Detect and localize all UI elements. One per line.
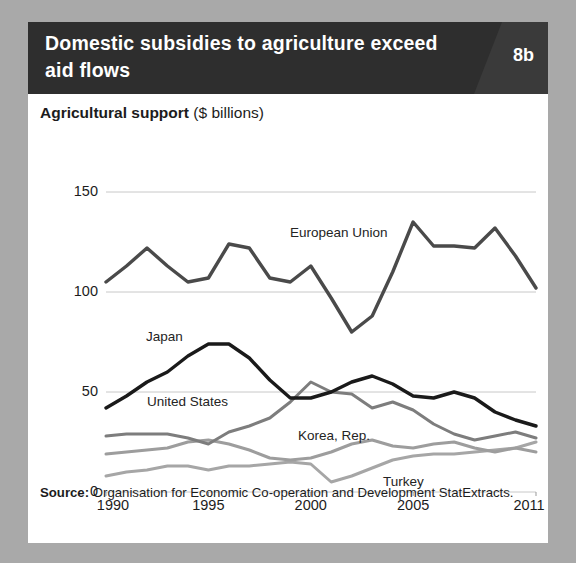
series-label-japan: Japan [146, 329, 183, 344]
figure-panel: Domestic subsidies to agriculture exceed… [28, 22, 548, 543]
series-line [106, 344, 536, 426]
line-chart-svg [28, 130, 548, 510]
series-label-korea-rep: Korea, Rep. [298, 428, 370, 443]
source-note: Source: Organisation for Economic Co-ope… [40, 484, 532, 501]
y-axis-tick-label: 150 [58, 183, 98, 199]
chart-subtitle-units: ($ billions) [193, 104, 264, 121]
chart-subtitle-bold: Agricultural support [40, 104, 189, 121]
y-axis-tick-label: 50 [58, 383, 98, 399]
chart-plot-area: 05010015019901995200020052011European Un… [28, 130, 548, 510]
source-text: Organisation for Economic Co-operation a… [93, 485, 514, 500]
figure-header: Domestic subsidies to agriculture exceed… [28, 22, 548, 94]
source-label: Source: [40, 485, 89, 500]
figure-number-badge: 8b [513, 45, 534, 66]
series-line [106, 440, 536, 460]
chart-subtitle: Agricultural support ($ billions) [40, 104, 264, 122]
series-label-united-states: United States [147, 394, 228, 409]
series-label-european-union: European Union [290, 225, 388, 240]
figure-title: Domestic subsidies to agriculture exceed… [45, 30, 445, 84]
y-axis-tick-label: 100 [58, 283, 98, 299]
